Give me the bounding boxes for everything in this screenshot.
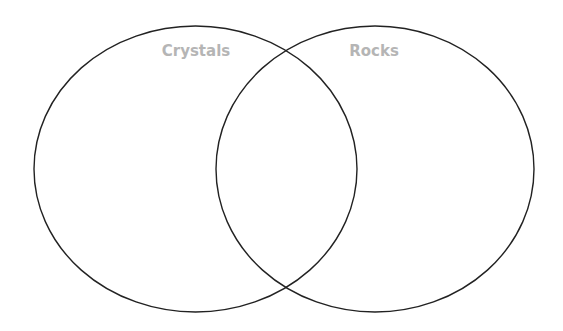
label-rocks: Rocks — [349, 42, 399, 60]
circle-crystals — [34, 26, 357, 312]
venn-diagram: Crystals Rocks — [0, 0, 563, 331]
circle-rocks — [216, 26, 534, 312]
label-crystals: Crystals — [162, 42, 231, 60]
